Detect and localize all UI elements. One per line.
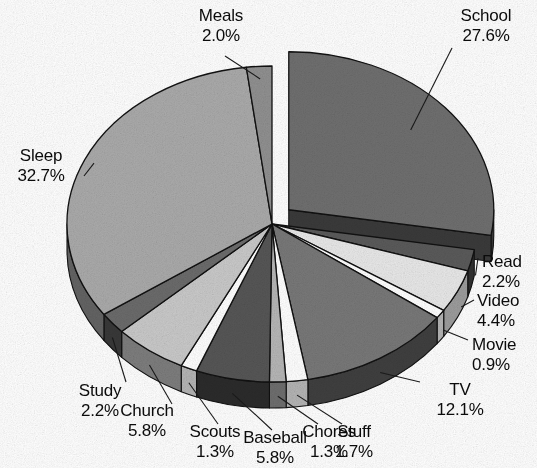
slice-label-movie-percent: 0.9%: [472, 355, 537, 375]
slice-label-church-percent: 5.8%: [110, 421, 184, 441]
slice-label-meals: Meals 2.0%: [178, 6, 264, 46]
slice-label-church: Church 5.8%: [110, 401, 184, 441]
slice-label-sleep-name: Sleep: [2, 146, 80, 166]
slice-label-meals-percent: 2.0%: [178, 26, 264, 46]
slice-label-read-name: Read: [482, 252, 537, 272]
slice-label-tv-name: TV: [424, 380, 496, 400]
slice-label-read-percent: 2.2%: [482, 272, 537, 292]
slice-label-school-percent: 27.6%: [443, 26, 529, 46]
slice-label-movie-name: Movie: [472, 335, 537, 355]
slice-label-study-name: Study: [68, 381, 132, 401]
slice-label-school: School 27.6%: [443, 6, 529, 46]
slice-label-sleep-percent: 32.7%: [2, 166, 80, 186]
slice-label-stuff-percent: 1.7%: [327, 442, 381, 462]
slice-label-video: Video 4.4%: [477, 291, 537, 331]
slice-label-movie: Movie 0.9%: [472, 335, 537, 375]
slice-label-school-name: School: [443, 6, 529, 26]
pie-chart: Meals 2.0% School 27.6% Sleep 32.7% Read…: [0, 0, 537, 468]
slice-label-meals-name: Meals: [178, 6, 264, 26]
slice-label-video-percent: 4.4%: [477, 311, 537, 331]
slice-label-tv-percent: 12.1%: [424, 400, 496, 420]
slice-label-sleep: Sleep 32.7%: [2, 146, 80, 186]
slice-label-stuff: Stuff 1.7%: [327, 422, 381, 462]
slice-label-tv: TV 12.1%: [424, 380, 496, 420]
slice-label-church-name: Church: [110, 401, 184, 421]
slice-label-read: Read 2.2%: [482, 252, 537, 292]
slice-label-video-name: Video: [477, 291, 537, 311]
slice-label-stuff-name: Stuff: [327, 422, 381, 442]
